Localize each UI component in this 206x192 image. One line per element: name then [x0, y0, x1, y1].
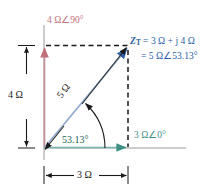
phasor-diagram-canvas	[0, 0, 206, 192]
magnitude-construction-line-upper	[82, 48, 127, 105]
impedance-line2: = 5 Ω∠53.13°	[130, 50, 198, 63]
impedance-line1-rest: = 3 Ω + j 4 Ω	[141, 35, 195, 46]
resistance-phasor-label: 3 Ω∠0°	[134, 131, 166, 141]
impedance-result-label: ZT = 3 Ω + j 4 Ω = 5 Ω∠53.13°	[130, 35, 198, 62]
reactance-phasor-label: 4 Ω∠90°	[47, 16, 83, 26]
angle-label: 53.13°	[62, 135, 89, 145]
resistance-dimension-label: 3 Ω	[77, 170, 92, 180]
reactance-dimension-label: 4 Ω	[8, 90, 23, 100]
phasor-diagram-figure: 4 Ω∠90° 4 Ω 5 Ω 53.13° 3 Ω∠0° 3 Ω ZT = 3…	[0, 0, 206, 192]
